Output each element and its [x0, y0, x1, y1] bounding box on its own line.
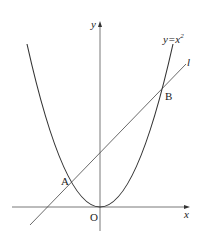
- origin-label: O: [90, 211, 98, 223]
- y-axis-label: y: [90, 18, 96, 30]
- line-l-label: l: [187, 56, 190, 68]
- coordinate-plane: y x O A B l y=x2: [0, 0, 204, 241]
- x-axis-label: x: [183, 208, 189, 220]
- line-l: [30, 64, 186, 225]
- graph-diagram: y x O A B l y=x2: [0, 0, 204, 241]
- curve-label: y=x2: [162, 32, 184, 45]
- point-a-label: A: [61, 175, 69, 187]
- y-axis-arrow-icon: [98, 21, 102, 27]
- point-b-label: B: [165, 90, 172, 102]
